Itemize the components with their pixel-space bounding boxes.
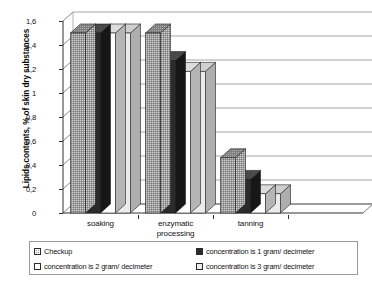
- x-category-label-line: enzymatic: [138, 219, 213, 229]
- bar-chart: Lipids contents, % of skin dry substance…: [0, 0, 372, 291]
- x-category-label-line: tanning: [213, 219, 288, 229]
- chart-legend: Checkupconcentration is 1 gram/ decimete…: [29, 241, 358, 275]
- legend-label: concentration is 1 gram/ decimeter: [206, 247, 314, 256]
- legend-label: concentration is 3 gram/ decimeter: [206, 262, 314, 271]
- x-category-label: enzymaticprocessing: [138, 219, 213, 239]
- x-tick-mark: [138, 215, 139, 219]
- conc3-swatch: [196, 263, 203, 270]
- conc1-swatch: [196, 248, 203, 255]
- x-category-label-line: soaking: [63, 219, 138, 229]
- x-tick-mark: [213, 215, 214, 219]
- x-category-label-line: processing: [138, 229, 213, 239]
- legend-item[interactable]: concentration is 3 gram/ decimeter: [196, 259, 356, 274]
- conc2-swatch: [34, 263, 41, 270]
- legend-item[interactable]: Checkup: [34, 244, 196, 259]
- checkup-swatch: [34, 248, 41, 255]
- legend-label: concentration is 2 gram/ decimeter: [44, 262, 152, 271]
- x-category-label: tanning: [213, 219, 288, 229]
- legend-label: Checkup: [44, 247, 72, 256]
- legend-item[interactable]: concentration is 2 gram/ decimeter: [34, 259, 196, 274]
- x-category-label: soaking: [63, 219, 138, 229]
- legend-item[interactable]: concentration is 1 gram/ decimeter: [196, 244, 356, 259]
- x-tick-mark: [288, 215, 289, 219]
